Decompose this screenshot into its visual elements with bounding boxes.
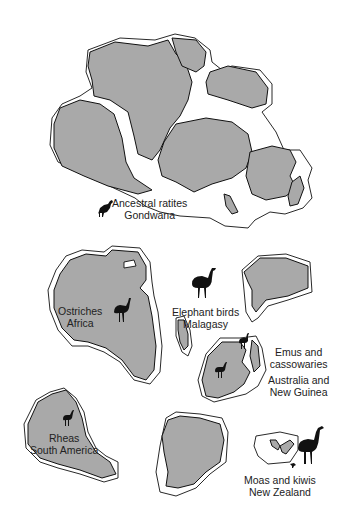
gondwana-australia: [246, 146, 296, 200]
moa-bird-icon: [298, 426, 324, 464]
south-america-bird-group: Rheas: [30, 432, 98, 444]
gondwana-caption-line1: Ancestral ratites: [112, 197, 187, 209]
australia-bird-group-2: cassowaries: [268, 358, 329, 370]
antarctica-continent: [156, 412, 228, 496]
south-america-place: South America: [30, 444, 98, 456]
kiwi-bird-icon: [290, 463, 296, 468]
india-landmass: [242, 254, 312, 322]
new-zealand-label: Moas and kiwis New Zealand: [244, 474, 316, 498]
new-zealand-islands: [254, 432, 298, 464]
ratite-biogeography-diagram: Ancestral ratites Gondwana Ostriches Afr…: [0, 0, 348, 513]
africa-label: Ostriches Africa: [58, 305, 102, 329]
south-america-label: Rheas South America: [30, 432, 98, 456]
australia-place: Australia and: [268, 374, 329, 386]
australia-place-2: New Guinea: [268, 386, 329, 398]
new-zealand-bird-group: Moas and kiwis: [244, 474, 316, 486]
madagascar-bird-group: Elephant birds: [172, 306, 239, 318]
australia-bird-group: Emus and: [268, 346, 329, 358]
madagascar-label: Elephant birds Malagasy: [172, 306, 239, 330]
gondwana-caption-line2: Gondwana: [112, 209, 187, 221]
gondwana-caption: Ancestral ratites Gondwana: [112, 197, 187, 221]
ancestral-ratite-bird-icon: [98, 200, 113, 217]
africa-place: Africa: [58, 317, 102, 329]
madagascar-place: Malagasy: [172, 318, 239, 330]
australia-label: Emus and cassowaries Australia and New G…: [268, 346, 329, 398]
new-zealand-place: New Zealand: [244, 486, 316, 498]
elephant-bird-icon: [192, 268, 216, 298]
africa-bird-group: Ostriches: [58, 305, 102, 317]
australia-continent: [198, 336, 266, 402]
